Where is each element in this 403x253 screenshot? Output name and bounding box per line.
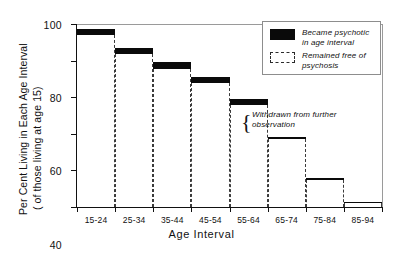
x-tick-label-15-24: 15-24 [85,215,108,225]
x-tick-7 [344,207,345,212]
bar-segment-free-65-74 [268,139,306,207]
legend-label-free-line-2: psychosis [302,61,338,70]
legend-item-psychotic: Became psychotic in age interval [270,28,369,47]
y-tick-label-40: 40 [50,239,62,251]
bar-75-84 [306,178,344,207]
annotation-text: Withdrawn from further observation [252,110,391,130]
annotation-text-line-2: observation [252,120,295,129]
bar-segment-free-75-84 [306,180,344,207]
x-tick-label-85-94: 85-94 [352,215,375,225]
brace-icon: { [241,110,250,136]
y-tick-label-100: 100 [44,19,62,31]
chart-legend: Became psychotic in age interval Remaine… [262,21,381,75]
chart-figure: Per Cent Living in Each Age Interval ( o… [0,0,403,253]
x-axis-title: Age Interval [0,228,403,240]
bar-segment-psychotic-45-54 [191,77,229,82]
x-tick-8 [382,207,383,212]
legend-label-free-line-1: Remained free of [302,51,366,60]
legend-label-psychotic: Became psychotic in age interval [302,28,369,47]
x-tick-label-25-34: 25-34 [123,215,146,225]
legend-label-psychotic-line-2: in age interval [302,38,354,47]
bar-segment-psychotic-15-24 [77,29,115,35]
annotation-withdrawn: { Withdrawn from further observation [241,110,391,130]
x-tick-0 [77,207,78,212]
bar-15-24 [77,29,115,207]
bar-segment-free-35-44 [153,69,191,207]
y-axis-title-line-2: ( of those living at age 15) [31,86,43,210]
y-tick-label-80: 80 [50,92,62,104]
x-tick-label-55-64: 55-64 [237,215,260,225]
legend-swatch-solid-icon [270,29,295,40]
bar-segment-free-15-24 [77,35,115,207]
legend-item-free: Remained free of psychosis [270,51,366,70]
x-tick-label-35-44: 35-44 [161,215,184,225]
bar-segment-free-45-54 [191,83,229,207]
annotation-text-line-1: Withdrawn from further [252,110,337,119]
legend-swatch-dashed-icon [270,52,295,63]
x-tick-3 [191,207,192,212]
x-tick-5 [268,207,269,212]
bar-35-44 [153,62,191,207]
y-tick-label-60: 60 [50,165,62,177]
x-tick-4 [230,207,231,212]
y-tick-100: 100 [71,24,77,25]
x-tick-6 [306,207,307,212]
x-tick-label-45-54: 45-54 [199,215,222,225]
bar-segment-psychotic-55-64 [230,99,268,104]
y-axis-title-line-1: Per Cent Living in Each Age Interval [17,43,29,215]
bar-segment-free-25-34 [115,54,153,207]
bar-45-54 [191,77,229,207]
bar-segment-psychotic-25-34 [115,48,153,54]
x-tick-2 [153,207,154,212]
bar-segment-psychotic-85-94 [344,202,382,204]
bar-segment-psychotic-75-84 [306,178,344,181]
bar-25-34 [115,48,153,207]
legend-label-psychotic-line-1: Became psychotic [302,28,369,37]
bar-segment-psychotic-35-44 [153,62,191,68]
x-tick-1 [115,207,116,212]
x-tick-label-75-84: 75-84 [313,215,336,225]
bar-85-94 [344,202,382,207]
x-tick-label-65-74: 65-74 [275,215,298,225]
legend-label-free: Remained free of psychosis [302,51,366,70]
bar-segment-free-85-94 [344,203,382,207]
bar-segment-psychotic-65-74 [268,137,306,140]
bar-65-74 [268,137,306,207]
